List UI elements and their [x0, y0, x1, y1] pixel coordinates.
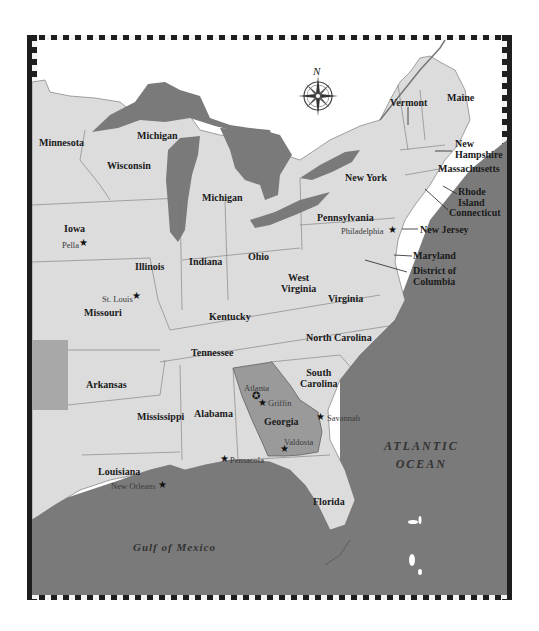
state-label-south-carolina-line2: Carolina: [300, 378, 338, 389]
city-label-new-orleans: New Orleans: [111, 481, 156, 491]
state-label-alabama: Alabama: [194, 408, 233, 419]
water-label-gulf-of-mexico: Gulf of Mexico: [133, 541, 216, 553]
state-label-new-hampshire-line2: Hampshire: [455, 149, 503, 160]
state-label-new-hampshire-line1: New: [455, 138, 503, 149]
state-label-michigan-upper: Michigan: [137, 130, 178, 141]
state-label-dc: District of Columbia: [413, 265, 456, 287]
city-label-philadelphia: Philadelphia: [341, 226, 384, 236]
state-label-vermont: Vermont: [390, 97, 427, 108]
state-label-tennessee: Tennessee: [191, 347, 233, 358]
state-label-iowa: Iowa: [64, 223, 85, 234]
water-label-atlantic: ATLANTIC OCEAN: [384, 437, 459, 473]
state-label-west-virginia-line1: West: [281, 272, 316, 283]
state-label-maine: Maine: [447, 92, 474, 103]
compass-rose: [298, 76, 338, 116]
star-icon-st-louis: ★: [132, 291, 141, 301]
star-icon-savannah: ★: [316, 412, 325, 422]
state-label-mississippi: Mississippi: [137, 411, 184, 422]
city-label-pensacola: Pensacola: [230, 455, 264, 465]
water-label-atlantic-line2: OCEAN: [384, 455, 459, 473]
state-label-west-virginia: West Virginia: [281, 272, 316, 294]
star-icon-griffin: ★: [258, 398, 267, 408]
state-label-louisiana: Louisiana: [98, 466, 140, 477]
water-label-atlantic-line1: ATLANTIC: [384, 437, 459, 455]
city-label-st-louis: St. Louis: [102, 294, 133, 304]
star-icon-pella: ★: [79, 238, 88, 248]
state-label-new-jersey: New Jersey: [420, 224, 469, 235]
state-label-new-york: New York: [345, 172, 387, 183]
state-label-missouri: Missouri: [84, 307, 122, 318]
state-label-wisconsin: Wisconsin: [107, 160, 151, 171]
state-label-west-virginia-line2: Virginia: [281, 283, 316, 294]
state-label-dc-line1: District of: [413, 265, 456, 276]
state-label-south-carolina: South Carolina: [300, 367, 338, 389]
state-label-dc-line2: Columbia: [413, 276, 456, 287]
compass-north-label: N: [313, 66, 320, 77]
state-label-rhode-island-line1: Rhode: [458, 186, 486, 197]
star-icon-new-orleans: ★: [158, 480, 167, 490]
star-icon-pensacola: ★: [220, 454, 229, 464]
state-label-maryland: Maryland: [413, 250, 456, 261]
state-label-michigan-lower: Michigan: [202, 192, 243, 203]
state-label-rhode-island: Rhode Island: [458, 186, 486, 208]
state-label-virginia: Virginia: [328, 293, 363, 304]
state-label-illinois: Illinois: [135, 261, 164, 272]
state-label-south-carolina-line1: South: [300, 367, 338, 378]
state-label-ohio: Ohio: [248, 251, 269, 262]
state-label-massachusetts: Massachusetts: [438, 163, 500, 174]
star-icon-philadelphia: ★: [388, 225, 397, 235]
state-label-florida: Florida: [313, 496, 345, 507]
city-label-griffin: Griffin: [268, 398, 291, 408]
state-label-arkansas: Arkansas: [86, 379, 127, 390]
star-icon-valdosta: ★: [280, 444, 289, 454]
state-label-pennsylvania: Pennsylvania: [317, 212, 374, 223]
state-label-connecticut: Connecticut: [449, 207, 501, 218]
state-label-georgia: Georgia: [264, 416, 298, 427]
state-label-indiana: Indiana: [189, 256, 222, 267]
city-label-savannah: Savannah: [327, 413, 360, 423]
state-label-new-hampshire: New Hampshire: [455, 138, 503, 160]
state-label-kentucky: Kentucky: [209, 311, 251, 322]
city-label-pella: Pella: [62, 240, 79, 250]
state-label-north-carolina: North Carolina: [306, 332, 372, 343]
oklahoma-sliver: [32, 340, 68, 410]
state-label-minnesota: Minnesota: [39, 137, 84, 148]
